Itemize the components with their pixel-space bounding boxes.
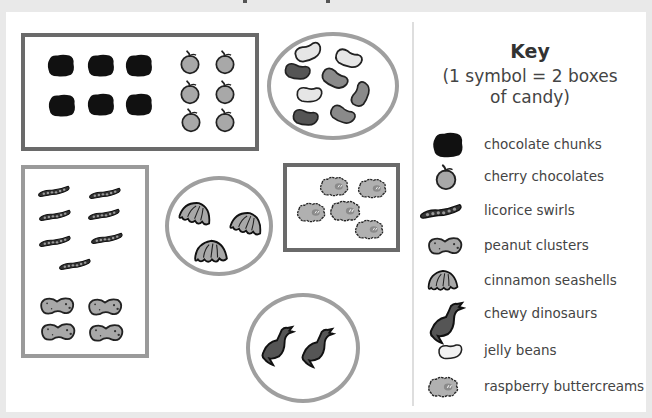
chewy-dinosaur-icon [426,301,466,345]
chocolate-chunk-icon [47,92,77,119]
key-label: cinnamon seashells [484,272,617,288]
key-label: cherry chocolates [484,168,604,184]
cherry-chocolate-icon [178,107,204,133]
raspberry-buttercream-icon [318,175,350,198]
cinnamon-seashell-icon [192,238,230,266]
key-row-cherry-chocolates: cherry chocolates [414,163,646,193]
licorice-swirl-icon [418,202,464,220]
licorice-swirl-icon [90,231,124,245]
chocolate-chunk-icon [86,91,116,118]
key-row-chocolate-chunks: chocolate chunks [414,131,646,161]
peanut-cluster-icon [39,322,77,342]
licorice-swirl-icon [37,184,71,198]
key-row-peanut-clusters: peanut clusters [414,233,646,263]
key-title: Key [414,40,646,62]
cherry-chocolate-icon [212,79,238,105]
key-scale-line-2: of candy) [414,87,646,108]
licorice-swirl-icon [58,257,92,271]
key-row-licorice-swirls: licorice swirls [414,200,646,230]
cherry-chocolate-icon [177,79,203,105]
key-scale-note: (1 symbol = 2 boxes of candy) [414,66,646,108]
raspberry-buttercream-icon [353,218,385,241]
peanut-cluster-icon [426,236,464,256]
key-label: peanut clusters [484,237,589,253]
raspberry-buttercream-icon [356,177,388,200]
cherry-chocolate-icon [212,107,238,133]
chocolate-chunk-icon [124,52,154,79]
raspberry-buttercream-icon [426,375,460,399]
key-label: chocolate chunks [484,136,602,152]
key-label: licorice swirls [484,202,575,218]
cherry-chocolate-icon [432,163,460,191]
key-label: jelly beans [484,342,557,358]
jelly-bean-icon [293,84,325,107]
peanut-cluster-icon [87,323,125,343]
chewy-dinosaur-icon [258,325,296,367]
licorice-swirl-icon [38,234,72,248]
chocolate-chunk-icon [430,131,466,159]
top-mark [326,0,330,3]
key-row-jelly-beans: jelly beans [414,340,646,370]
key-label: chewy dinosaurs [484,305,597,321]
cherry-chocolate-icon [212,49,238,75]
raspberry-buttercream-icon [295,201,327,224]
key-row-chewy-dinosaurs: chewy dinosaurs [414,305,646,335]
jelly-bean-icon [436,342,464,362]
top-mark [243,0,247,3]
key-scale-line-1: (1 symbol = 2 boxes [414,66,646,87]
key-label: raspberry buttercreams [484,378,644,394]
chocolate-chunk-icon [124,91,154,118]
licorice-swirl-icon [38,208,72,222]
key-row-raspberry-buttercreams: raspberry buttercreams [414,375,646,405]
chewy-dinosaur-icon [298,327,336,369]
licorice-swirl-icon [88,186,122,200]
chocolate-chunk-icon [46,52,76,79]
cinnamon-seashell-icon [426,268,460,294]
peanut-cluster-icon [39,296,75,316]
key-row-cinnamon-seashells: cinnamon seashells [414,268,646,298]
licorice-swirl-icon [87,207,121,221]
peanut-cluster-icon [87,297,123,317]
cherry-chocolate-icon [177,49,203,75]
chocolate-chunk-icon [86,52,116,79]
